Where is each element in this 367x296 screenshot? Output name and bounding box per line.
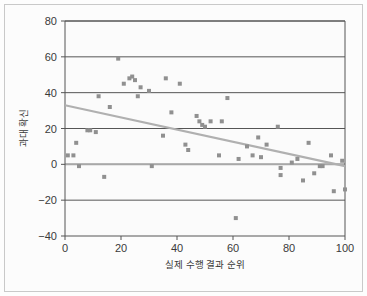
data-point — [301, 178, 305, 182]
data-point — [116, 57, 120, 61]
data-point — [161, 134, 165, 138]
data-point — [203, 125, 207, 129]
data-point — [122, 82, 126, 86]
data-point — [183, 143, 187, 147]
data-point — [307, 141, 311, 145]
data-point — [197, 119, 201, 123]
data-point — [321, 164, 325, 168]
data-point — [340, 159, 344, 163]
y-axis-title: 과대 확신 — [18, 109, 29, 148]
data-point — [130, 75, 134, 79]
data-point — [225, 96, 229, 100]
data-point — [178, 82, 182, 86]
data-point — [164, 76, 168, 80]
x-tick-label: 80 — [283, 242, 295, 254]
data-point — [97, 94, 101, 98]
data-point — [256, 135, 260, 139]
data-point — [77, 164, 81, 168]
data-point — [186, 148, 190, 152]
data-point — [237, 157, 241, 161]
data-point — [66, 153, 70, 157]
data-point — [343, 187, 347, 191]
data-point — [94, 130, 98, 134]
chart-figure: 020406080100 −40−20020406080 실제 수행 결과 순위… — [0, 0, 367, 296]
y-axis-tick-labels: −40−20020406080 — [38, 15, 57, 242]
y-tick-label: 40 — [45, 87, 57, 99]
data-point — [245, 144, 249, 148]
x-axis-tick-labels: 020406080100 — [62, 242, 354, 254]
data-point — [139, 85, 143, 89]
data-point — [195, 114, 199, 118]
y-tick-label: −40 — [38, 230, 57, 242]
data-point — [133, 78, 137, 82]
data-point — [71, 153, 75, 157]
data-point — [279, 173, 283, 177]
data-point — [102, 175, 106, 179]
data-point — [136, 94, 140, 98]
x-tick-label: 20 — [115, 242, 127, 254]
data-point — [259, 155, 263, 159]
data-point — [290, 161, 294, 165]
x-tick-label: 0 — [62, 242, 68, 254]
data-point — [279, 166, 283, 170]
y-tick-label: 20 — [45, 123, 57, 135]
scatter-plot: 020406080100 −40−20020406080 실제 수행 결과 순위… — [0, 0, 367, 296]
data-point — [108, 105, 112, 109]
data-point — [88, 128, 92, 132]
data-point — [209, 119, 213, 123]
data-point — [234, 216, 238, 220]
data-point — [332, 189, 336, 193]
data-point — [295, 157, 299, 161]
data-point — [220, 119, 224, 123]
data-point — [329, 153, 333, 157]
x-tick-label: 100 — [336, 242, 354, 254]
data-point — [150, 164, 154, 168]
y-tick-label: 80 — [45, 15, 57, 27]
data-point — [276, 125, 280, 129]
data-point — [312, 171, 316, 175]
x-tick-label: 40 — [171, 242, 183, 254]
data-point — [217, 153, 221, 157]
x-axis-title: 실제 수행 결과 순위 — [165, 259, 245, 270]
data-point — [74, 141, 78, 145]
data-point — [169, 110, 173, 114]
y-tick-label: 60 — [45, 51, 57, 63]
data-point — [265, 143, 269, 147]
data-point — [147, 89, 151, 93]
data-point — [251, 153, 255, 157]
x-tick-label: 60 — [227, 242, 239, 254]
y-tick-label: 0 — [51, 158, 57, 170]
y-tick-label: −20 — [38, 194, 57, 206]
